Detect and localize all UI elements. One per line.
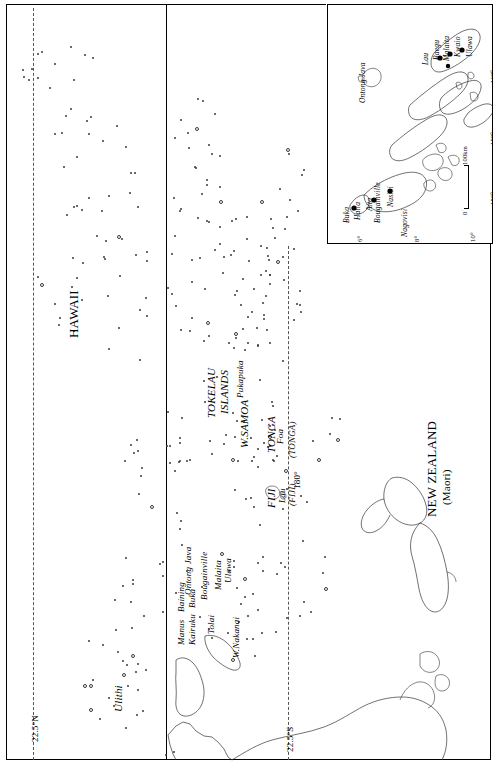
island-dot bbox=[102, 644, 104, 646]
island-dot bbox=[254, 655, 256, 657]
inset-lon-tick-160: 160° bbox=[489, 70, 493, 83]
island-dot bbox=[256, 327, 258, 329]
island-dot bbox=[139, 309, 141, 311]
island-dot bbox=[137, 689, 139, 691]
island-dot bbox=[88, 197, 90, 199]
island-dot bbox=[280, 562, 282, 564]
island-dot bbox=[92, 679, 94, 681]
island-dot bbox=[146, 251, 148, 253]
island-dot bbox=[70, 108, 72, 110]
island-dot bbox=[253, 506, 255, 508]
island-dot bbox=[191, 259, 193, 261]
island-dot bbox=[272, 227, 274, 229]
island-dot bbox=[108, 697, 110, 699]
island-dot bbox=[115, 629, 117, 631]
island-dot bbox=[284, 566, 286, 568]
island-dot bbox=[230, 254, 232, 256]
island-dot bbox=[22, 69, 24, 71]
island-dot bbox=[102, 140, 104, 142]
island-dot bbox=[162, 561, 164, 563]
island-dot bbox=[199, 616, 201, 618]
island-dot bbox=[261, 419, 263, 421]
island-dot bbox=[251, 460, 253, 462]
island-dot bbox=[203, 340, 205, 342]
island-dot bbox=[312, 440, 314, 442]
inset-scale-bar bbox=[464, 165, 474, 209]
label-pukapuka: Pukapuka bbox=[235, 360, 245, 398]
island-dot bbox=[265, 270, 267, 272]
island-dot bbox=[236, 587, 238, 589]
island-dot bbox=[272, 405, 274, 407]
island-dot bbox=[246, 238, 248, 240]
island-dot bbox=[262, 570, 264, 572]
island-dot bbox=[88, 133, 90, 135]
island-dot bbox=[101, 210, 103, 212]
inset-lon-tick-156: 156° bbox=[489, 192, 493, 205]
island-dot bbox=[257, 345, 259, 347]
island-dot bbox=[199, 257, 201, 259]
inset-label-buka: Buka bbox=[342, 207, 351, 223]
island-dot bbox=[137, 663, 139, 665]
label-tonga-paren: (TONGA) bbox=[287, 421, 297, 458]
island-dot bbox=[137, 206, 139, 208]
island-dot bbox=[31, 68, 33, 70]
label-ulithi: Ulithi bbox=[112, 685, 124, 712]
island-dot bbox=[171, 293, 173, 295]
island-dot bbox=[237, 460, 239, 462]
island-dot bbox=[231, 220, 233, 222]
island-dot bbox=[122, 660, 124, 662]
island-dot bbox=[174, 235, 176, 237]
inset-map: Ontong Java Buka Halia Aita Bougainville… bbox=[327, 4, 493, 244]
island-dot bbox=[252, 593, 254, 595]
island-dot bbox=[179, 528, 181, 530]
island-dot bbox=[228, 342, 230, 344]
island-dot bbox=[246, 638, 248, 640]
island-dot bbox=[231, 458, 235, 462]
island-dot bbox=[250, 497, 252, 499]
island-dot bbox=[243, 577, 247, 581]
island-dot bbox=[262, 556, 264, 558]
island-dot bbox=[180, 329, 182, 331]
island-dot bbox=[141, 467, 143, 469]
island-dot bbox=[92, 57, 94, 59]
island-dot bbox=[273, 460, 275, 462]
island-dot bbox=[76, 156, 78, 158]
island-dot bbox=[274, 237, 276, 239]
island-dot bbox=[251, 311, 253, 313]
island-dot bbox=[174, 137, 176, 139]
island-dot bbox=[165, 754, 167, 756]
island-dot bbox=[138, 493, 140, 495]
island-dot bbox=[208, 221, 210, 223]
island-dot bbox=[125, 727, 127, 729]
island-dot bbox=[143, 615, 145, 617]
island-dot bbox=[108, 348, 110, 350]
island-dot bbox=[28, 79, 30, 81]
island-dot bbox=[253, 456, 255, 458]
island-dot bbox=[299, 304, 301, 306]
island-dot bbox=[174, 470, 176, 472]
island-dot bbox=[288, 153, 290, 155]
inset-lon-tick-158: 158° bbox=[489, 132, 493, 145]
island-dot bbox=[89, 684, 93, 688]
island-dot bbox=[206, 321, 210, 325]
island-dot bbox=[260, 274, 262, 276]
island-dot bbox=[247, 615, 249, 617]
island-dot bbox=[293, 319, 295, 321]
island-dot bbox=[131, 627, 133, 629]
island-dot bbox=[169, 445, 171, 447]
island-dot bbox=[180, 119, 182, 121]
island-dot bbox=[63, 166, 65, 168]
island-dot bbox=[322, 572, 324, 574]
island-dot bbox=[206, 179, 208, 181]
island-dot bbox=[244, 596, 246, 598]
island-dot bbox=[61, 132, 63, 134]
island-dot bbox=[331, 417, 333, 419]
island-dot bbox=[127, 685, 129, 687]
island-dot bbox=[202, 100, 204, 102]
island-dot bbox=[248, 260, 250, 262]
island-dot bbox=[129, 192, 131, 194]
label-maori: (Maori) bbox=[440, 469, 452, 505]
island-dot bbox=[246, 216, 248, 218]
island-dot bbox=[179, 442, 181, 444]
island-dot bbox=[324, 556, 326, 558]
